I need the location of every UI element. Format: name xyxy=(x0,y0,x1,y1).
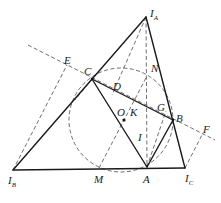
segment-ab xyxy=(147,120,173,167)
label-ic: IC xyxy=(184,172,194,187)
point-o xyxy=(122,118,125,121)
label-d: D xyxy=(112,80,121,92)
label-ia: IA xyxy=(149,7,159,22)
label-e: E xyxy=(63,54,71,66)
label-m: M xyxy=(93,173,104,185)
label-c: C xyxy=(84,65,92,77)
side-ib-ia xyxy=(13,17,146,170)
label-b: B xyxy=(176,112,183,124)
label-i: I xyxy=(137,131,143,143)
label-g: G xyxy=(157,101,165,113)
geometry-diagram: IA IB IC A B C D E F G I K M N O xyxy=(0,0,221,203)
label-a: A xyxy=(142,173,150,185)
line-ia-a xyxy=(146,17,147,167)
point-c xyxy=(91,78,93,80)
point-b xyxy=(172,119,174,121)
side-ia-ic xyxy=(146,17,185,168)
line-ic-f xyxy=(185,133,203,168)
label-f: F xyxy=(202,123,210,135)
label-k: K xyxy=(129,106,138,118)
label-n: N xyxy=(150,62,159,74)
label-o: O xyxy=(117,106,125,118)
label-ib: IB xyxy=(7,174,17,189)
circumcircle xyxy=(69,68,173,172)
side-ib-ic xyxy=(13,168,185,170)
